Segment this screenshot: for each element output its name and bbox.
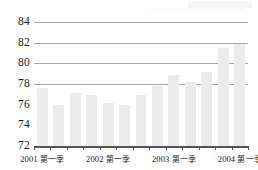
- x-axis-labels: 2001 第一季2002 第一季2003 第一季2004 第一季: [0, 154, 258, 170]
- x-axis-tick: [199, 146, 200, 150]
- bar: [234, 44, 245, 146]
- x-label-quarter: 第一季: [172, 155, 196, 164]
- y-axis-tick-label: 80: [18, 58, 30, 70]
- x-axis-tick: [67, 146, 68, 150]
- x-axis-tick-label: 2002 第一季: [86, 154, 130, 165]
- bar: [103, 103, 114, 146]
- x-axis-tick: [182, 146, 183, 150]
- x-label-year: 2004: [218, 154, 235, 164]
- x-axis-tick: [34, 146, 35, 150]
- x-axis-tick: [215, 146, 216, 150]
- x-axis-tick-label: 2004 第一季: [218, 154, 258, 165]
- cropped-header-rule: [150, 9, 246, 10]
- x-axis-tick: [232, 146, 233, 150]
- bar: [119, 105, 130, 146]
- bar: [70, 93, 81, 146]
- bar: [86, 95, 97, 146]
- x-axis-tick: [83, 146, 84, 150]
- cropped-header-artifact: [188, 1, 252, 8]
- x-label-quarter: 第一季: [106, 155, 130, 164]
- y-axis-tick-label: 74: [18, 120, 30, 132]
- bar: [152, 86, 163, 146]
- x-axis-tick: [50, 146, 51, 150]
- bar: [37, 88, 48, 146]
- x-axis-tick: [149, 146, 150, 150]
- x-axis-tick: [116, 146, 117, 150]
- y-axis-labels: 84828078767472: [0, 0, 34, 170]
- x-axis-tick-label: 2003 第一季: [152, 154, 196, 165]
- bar-chart: 84828078767472 2001 第一季2002 第一季2003 第一季2…: [0, 0, 258, 170]
- bar: [201, 72, 212, 146]
- bar: [168, 75, 179, 146]
- bar: [136, 95, 147, 146]
- bar-series: [34, 22, 248, 146]
- x-label-year: 2003: [152, 154, 169, 164]
- y-axis-tick-label: 78: [18, 78, 30, 90]
- x-axis-tick: [248, 146, 249, 150]
- y-axis-tick-label: 82: [18, 37, 30, 49]
- y-axis-tick-label: 72: [18, 140, 30, 152]
- x-label-quarter: 第一季: [237, 155, 258, 164]
- bar: [53, 105, 64, 146]
- bar: [218, 48, 229, 146]
- x-axis-tick: [166, 146, 167, 150]
- x-axis-tick: [100, 146, 101, 150]
- bar: [185, 82, 196, 146]
- x-label-year: 2001: [20, 154, 37, 164]
- x-label-year: 2002: [86, 154, 103, 164]
- x-axis-tick-label: 2001 第一季: [20, 154, 64, 165]
- plot-area: [34, 22, 248, 146]
- y-axis-tick-label: 84: [18, 16, 30, 28]
- x-axis-tick: [133, 146, 134, 150]
- y-axis-tick-label: 76: [18, 99, 30, 111]
- x-label-quarter: 第一季: [40, 155, 64, 164]
